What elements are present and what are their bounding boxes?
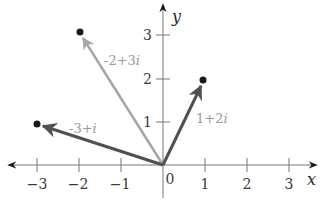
complex-plane-diagram: −3 −2 −1 1 2 3 0 1 2 3 x y -2+3i -3+i 1+…: [0, 0, 321, 203]
origin-label: 0: [166, 171, 175, 187]
x-tick-label: 3: [285, 176, 294, 192]
x-tick-label: 1: [201, 176, 210, 192]
x-axis-label: x: [307, 170, 316, 189]
x-tick-label: 2: [243, 176, 252, 192]
point-neg2-plus-3i: [77, 29, 84, 36]
vector-label-1-plus-2i: 1+2i: [196, 111, 228, 126]
x-tick-label: −2: [68, 176, 89, 192]
y-tick-label: 2: [143, 71, 152, 87]
y-axis-label: y: [171, 7, 182, 26]
y-tick-label: 1: [143, 114, 152, 130]
point-1-plus-2i: [200, 77, 207, 84]
vector-label-neg3-plus-i: -3+i: [69, 121, 97, 136]
vector-label-neg2-plus-3i: -2+3i: [104, 53, 140, 68]
x-tick-label: −1: [110, 176, 131, 192]
point-neg3-plus-i: [34, 121, 41, 128]
y-tick-label: 3: [143, 27, 152, 43]
vector-neg3-plus-i: [43, 126, 163, 165]
x-tick-label: −3: [27, 176, 48, 192]
